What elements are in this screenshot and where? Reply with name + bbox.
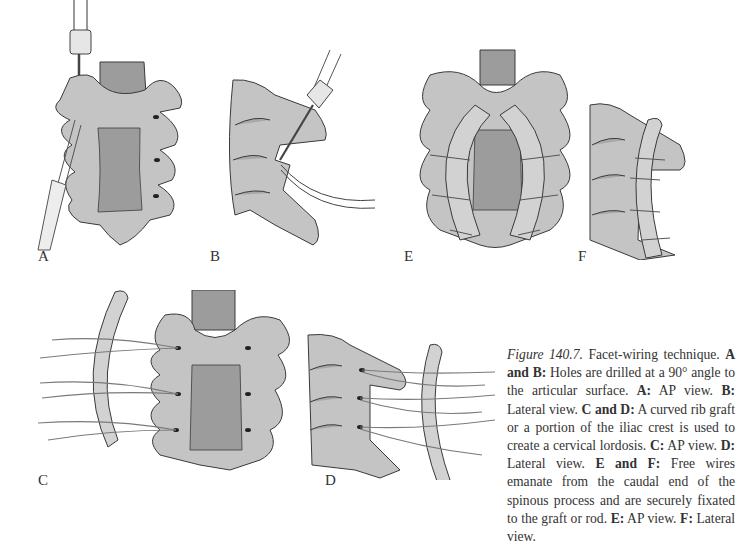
caption-text-e: AP view. (624, 511, 680, 526)
caption-text-b: Lateral view. (507, 402, 582, 417)
panel-a-label: A (38, 248, 49, 265)
panel-c-label: C (38, 472, 48, 489)
caption-bold-a: A: (637, 383, 651, 398)
caption-text-d: Lateral view. (507, 456, 595, 471)
panel-f-label: F (578, 248, 586, 265)
caption-bold-f: F: (680, 511, 693, 526)
caption-bold-e: E: (611, 511, 625, 526)
figure-number: Figure 140.7. (507, 347, 583, 362)
caption-text-c: AP view. (664, 438, 720, 453)
figure-title: Facet-wiring technique. (588, 347, 719, 362)
panel-a-illustration (0, 0, 200, 255)
caption-bold-b: B: (721, 383, 735, 398)
caption-bold-d: D: (721, 438, 735, 453)
caption-text-a: AP view. (651, 383, 721, 398)
panel-b-illustration (195, 40, 395, 250)
panel-d-label: D (325, 472, 336, 489)
caption-bold-ef: E and F: (595, 456, 660, 471)
caption-bold-cd: C and D: (582, 402, 635, 417)
panel-d-illustration (300, 330, 500, 480)
panel-c-illustration (30, 290, 290, 475)
caption-bold-c: C: (650, 438, 664, 453)
panel-f-illustration (580, 90, 700, 260)
panel-e-label: E (404, 248, 413, 265)
panel-e-illustration (410, 40, 580, 250)
figure-caption: Figure 140.7. Facet-wiring technique. A … (507, 346, 735, 545)
panel-b-label: B (210, 248, 220, 265)
